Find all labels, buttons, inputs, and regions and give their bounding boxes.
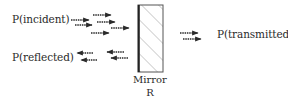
- reflected-arrows-icon: [77, 52, 128, 60]
- transmitted-arrows-icon: [180, 33, 201, 39]
- mirror-reflectance-symbol: R: [130, 87, 170, 98]
- mirror-icon: [138, 5, 163, 72]
- mirror-label: Mirror: [130, 74, 170, 85]
- incident-arrows-icon: [71, 15, 129, 33]
